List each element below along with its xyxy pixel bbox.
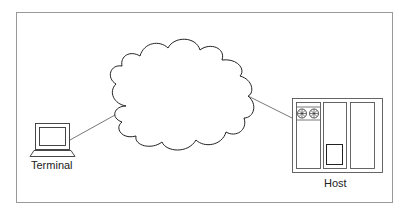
diagram-canvas (0, 0, 409, 211)
edge-network-host (248, 96, 292, 118)
host-computer-icon (293, 99, 383, 173)
cloud-icon (110, 39, 253, 150)
terminal-label: Terminal (31, 159, 73, 171)
terminal-icon (30, 124, 75, 157)
host-label: Host (324, 177, 347, 189)
